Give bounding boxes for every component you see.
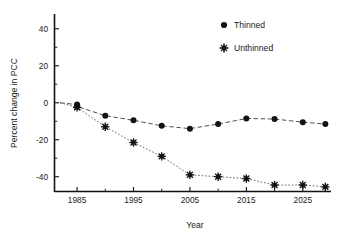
y-axis-title: Percent change in PCC bbox=[9, 58, 19, 148]
data-point-thinned-2025 bbox=[300, 119, 306, 125]
data-point-unthinned-1990 bbox=[101, 123, 109, 131]
chart-background bbox=[0, 0, 344, 238]
x-tick-label-2005: 2005 bbox=[181, 195, 200, 205]
data-point-unthinned-2000 bbox=[158, 152, 166, 160]
data-point-thinned-2029 bbox=[322, 121, 328, 127]
y-tick-label-0: 0 bbox=[43, 98, 48, 108]
data-point-thinned-2000 bbox=[159, 123, 165, 129]
data-point-thinned-2015 bbox=[243, 115, 249, 121]
y-tick-label-20: 20 bbox=[39, 61, 49, 71]
y-tick-label-40: 40 bbox=[39, 24, 49, 34]
x-tick-label-1995: 1995 bbox=[124, 195, 143, 205]
legend-marker-star-icon bbox=[220, 44, 229, 53]
data-point-unthinned-1985 bbox=[73, 103, 81, 111]
data-point-unthinned-2010 bbox=[214, 173, 222, 181]
percent-change-in-pcc-line-chart: 40200-20-40 19851995200520152025 Percent… bbox=[0, 0, 344, 238]
data-point-thinned-1990 bbox=[102, 113, 108, 119]
chart-container: 40200-20-40 19851995200520152025 Percent… bbox=[0, 0, 344, 238]
data-point-thinned-2020 bbox=[272, 116, 278, 122]
legend-marker-circle-icon bbox=[221, 22, 227, 28]
data-point-thinned-1995 bbox=[131, 117, 137, 123]
x-tick-label-2015: 2015 bbox=[237, 195, 256, 205]
x-tick-label-2025: 2025 bbox=[294, 195, 313, 205]
data-point-unthinned-2005 bbox=[186, 171, 194, 179]
x-axis-title: Year bbox=[186, 220, 204, 230]
legend-label-thinned: Thinned bbox=[234, 20, 265, 30]
data-point-unthinned-2029 bbox=[321, 183, 329, 191]
legend-label-unthinned: Unthinned bbox=[234, 43, 273, 53]
y-tick-label--20: -20 bbox=[36, 135, 48, 145]
x-tick-label-1985: 1985 bbox=[68, 195, 87, 205]
y-tick-label--40: -40 bbox=[36, 172, 48, 182]
data-point-unthinned-2015 bbox=[242, 174, 250, 182]
data-point-unthinned-2020 bbox=[270, 181, 278, 189]
data-point-thinned-2005 bbox=[187, 126, 193, 132]
data-point-unthinned-2025 bbox=[299, 181, 307, 189]
data-point-thinned-2010 bbox=[215, 121, 221, 127]
data-point-unthinned-1995 bbox=[129, 138, 137, 146]
